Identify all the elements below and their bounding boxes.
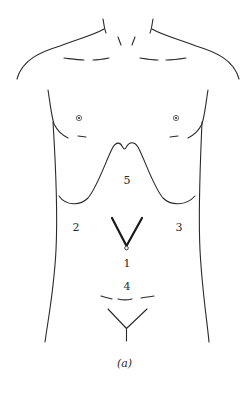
v-incision-left (112, 218, 126, 245)
neck-left-line (103, 19, 106, 33)
pubic-y-right (127, 309, 147, 328)
nipple-left-center (78, 117, 80, 119)
clavicle-right-1 (140, 58, 158, 60)
pubic-y-left (108, 309, 126, 328)
sternal-notch-right (132, 37, 135, 45)
hypogastric-dash-2 (118, 299, 132, 300)
umbilicus-icon (125, 246, 129, 250)
region-label-3: 3 (176, 222, 183, 233)
neck-right-line (150, 19, 153, 33)
clavicle-left-2 (93, 58, 109, 60)
pectoral-left-dash (78, 136, 86, 137)
v-incision-right (127, 218, 142, 245)
region-label-5: 5 (124, 175, 131, 186)
clavicle-left-1 (64, 58, 84, 60)
region-label-1: 1 (124, 258, 131, 269)
clavicle-right-2 (166, 58, 186, 60)
torso-diagram (0, 0, 249, 393)
nipple-right-center (175, 117, 177, 119)
sternal-notch-left (118, 37, 121, 45)
shoulder-right-line (152, 29, 239, 79)
torso-left-side (45, 122, 57, 342)
pectoral-right-dash (170, 136, 178, 137)
chest-right-side (188, 90, 208, 138)
chest-left-side (48, 90, 68, 138)
torso-right-side (199, 122, 209, 342)
region-label-2: 2 (73, 222, 80, 233)
hypogastric-dash-3 (141, 296, 154, 298)
figure-caption: (a) (117, 357, 132, 370)
hypogastric-dash-1 (101, 296, 112, 299)
shoulder-left-line (17, 29, 104, 79)
region-label-4: 4 (124, 281, 131, 292)
